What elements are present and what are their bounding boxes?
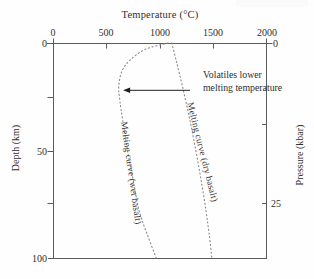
top-left-corner-tick xyxy=(47,39,54,44)
top-right-corner-tick xyxy=(267,39,273,44)
depth-tick-0: 0 xyxy=(18,38,47,49)
top-axis-ticks xyxy=(107,44,214,49)
x-tick-500: 500 xyxy=(99,27,114,38)
x-tick-1500: 1500 xyxy=(203,27,223,38)
annotation-line-1: Volatiles lower xyxy=(203,69,282,82)
annotation-arrow xyxy=(123,88,190,93)
depth-tick-100: 100 xyxy=(18,253,47,264)
depth-axis-label: Depth (km) xyxy=(10,125,21,171)
pressure-tick-0: 0 xyxy=(273,38,278,49)
plot-canvas xyxy=(0,0,314,279)
volatiles-annotation: Volatiles lower melting temperature xyxy=(203,69,282,94)
annotation-line-2: melting temperature xyxy=(203,82,282,95)
x-tick-0: 0 xyxy=(51,27,56,38)
right-axis-ticks xyxy=(262,125,267,204)
annotation-arrow-head xyxy=(123,88,130,93)
left-axis-ticks xyxy=(48,98,54,204)
pressure-tick-25: 25 xyxy=(271,198,281,209)
top-axis-title: Temperature (°C) xyxy=(53,9,267,20)
melting-curve-figure: Temperature (°C) 0 500 1000 1500 2000 0 … xyxy=(0,0,314,279)
pressure-axis-label: Pressure (kbar) xyxy=(294,125,305,186)
x-tick-1000: 1000 xyxy=(150,27,170,38)
x-tick-2000: 2000 xyxy=(257,27,277,38)
depth-tick-50: 50 xyxy=(18,146,47,157)
